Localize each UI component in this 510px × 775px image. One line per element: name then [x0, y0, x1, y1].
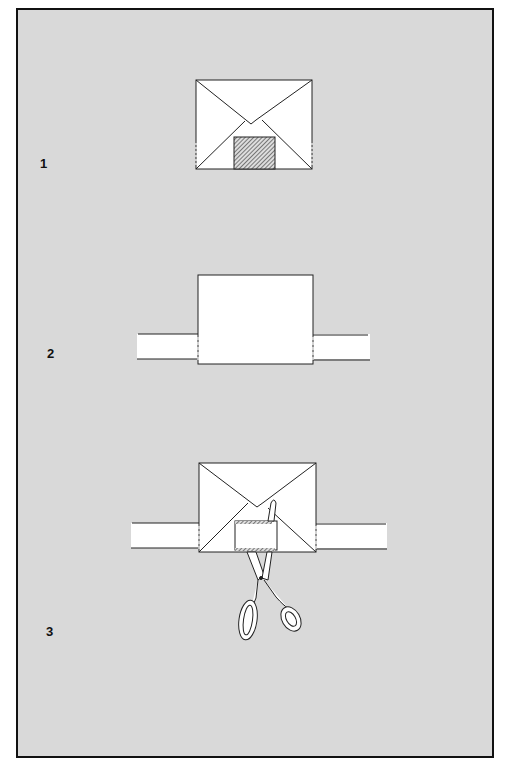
- step2-envelope-on-strip: [137, 275, 370, 364]
- step3-envelope-cut: [131, 463, 387, 552]
- step1-envelope: [196, 80, 312, 169]
- scissors-icon: [236, 552, 305, 641]
- stamp-icon: [234, 137, 275, 169]
